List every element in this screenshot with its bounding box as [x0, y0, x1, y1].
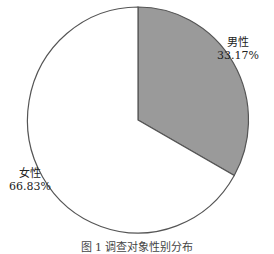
female-label-pct: 66.83% — [4, 180, 56, 193]
female-label-name: 女性 — [4, 167, 56, 180]
male-label: 男性 33.17% — [212, 36, 264, 62]
male-label-pct: 33.17% — [212, 49, 264, 62]
male-label-name: 男性 — [212, 36, 264, 49]
female-label: 女性 66.83% — [4, 167, 56, 193]
chart-caption: 图 1 调查对象性别分布 — [0, 238, 274, 254]
